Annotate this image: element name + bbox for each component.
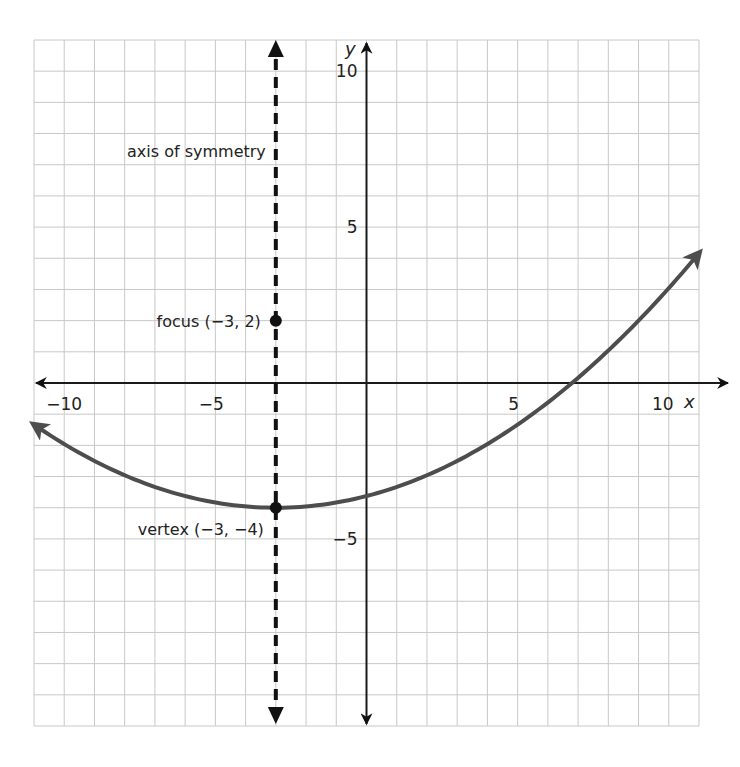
x-tick-label: −5: [199, 394, 224, 414]
x-tick-label: 10: [652, 394, 674, 414]
y-axis-label: y: [344, 38, 356, 59]
axis-of-symmetry-arrow-down: [268, 707, 284, 724]
labels: −10−5510105−5xyaxis of symmetryfocus (−3…: [46, 38, 695, 549]
axis-of-symmetry-label: axis of symmetry: [127, 142, 266, 161]
y-tick-label: 10: [336, 61, 358, 81]
vertex-point: [270, 502, 282, 514]
y-tick-label: −5: [332, 529, 357, 549]
parabola-chart: −10−5510105−5xyaxis of symmetryfocus (−3…: [0, 0, 740, 767]
x-axis-label: x: [683, 391, 695, 412]
focus-point: [270, 315, 282, 327]
y-tick-label: 5: [347, 217, 358, 237]
x-tick-label: −10: [46, 394, 82, 414]
axis-of-symmetry-arrow-up: [268, 40, 284, 57]
vertex-label: vertex (−3, −4): [138, 520, 264, 539]
focus-label: focus (−3, 2): [157, 312, 261, 331]
x-tick-label: 5: [508, 394, 519, 414]
